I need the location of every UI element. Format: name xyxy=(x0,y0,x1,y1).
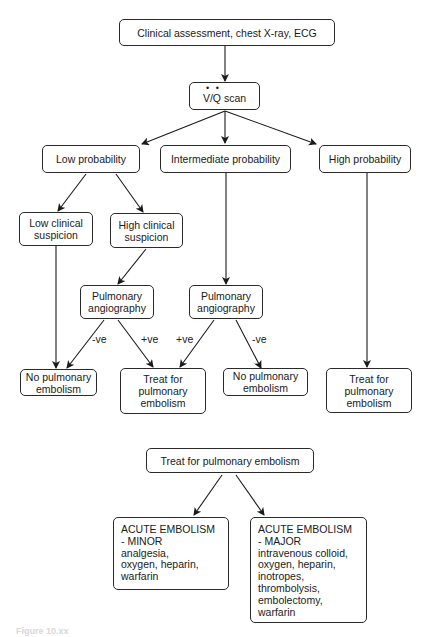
acute-embolism-minor-box: ACUTE EMBOLISM - MINOR analgesia, oxygen… xyxy=(113,517,229,590)
edge-label-right-negative: -ve xyxy=(252,333,267,345)
high-clinical-suspicion-box: High clinical suspicion xyxy=(110,213,183,248)
low-probability-label: Low probability xyxy=(56,153,126,165)
edge-label-left-positive: +ve xyxy=(141,333,158,345)
no-pulmonary-embolism-box-left: No pulmonary embolism xyxy=(20,369,97,396)
figure-caption: Figure 10.xx xyxy=(16,626,69,636)
intermediate-probability-label: Intermediate probability xyxy=(171,153,280,165)
edge-label-left-negative: -ve xyxy=(92,333,107,345)
acute-embolism-major-box: ACUTE EMBOLISM - MAJOR intravenous collo… xyxy=(250,517,367,623)
edge-label-right-positive: +ve xyxy=(176,333,193,345)
no-pulmonary-embolism-box-right: No pulmonary embolism xyxy=(223,368,308,396)
low-probability-box: Low probability xyxy=(42,145,140,173)
start-label: Clinical assessment, chest X-ray, ECG xyxy=(137,27,317,39)
high-probability-box: High probability xyxy=(319,145,411,173)
low-clinical-suspicion-box: Low clinical suspicion xyxy=(19,212,93,246)
vq-scan-box: • V / • Q scan xyxy=(189,82,260,110)
treat-pulmonary-embolism-box-right: Treat for pulmonary embolism xyxy=(326,368,412,413)
treat-pulmonary-embolism-box-center: Treat for pulmonary embolism xyxy=(120,368,206,414)
intermediate-probability-box: Intermediate probability xyxy=(160,145,291,173)
treatment-root-label: Treat for pulmonary embolism xyxy=(160,455,299,467)
pulmonary-angiography-box-right: Pulmonary angiography xyxy=(189,285,263,319)
vq-scan-label: • V / • Q scan xyxy=(203,92,246,104)
pulmonary-angiography-box-left: Pulmonary angiography xyxy=(80,285,154,319)
treatment-root-box: Treat for pulmonary embolism xyxy=(146,448,314,473)
start-box-clinical-assessment: Clinical assessment, chest X-ray, ECG xyxy=(119,19,335,46)
high-probability-label: High probability xyxy=(329,153,401,165)
